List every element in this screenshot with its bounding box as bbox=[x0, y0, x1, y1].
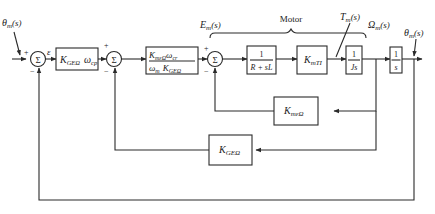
tm-label: Tm(s) bbox=[340, 11, 360, 24]
block-electrical: 1 R + sL bbox=[247, 46, 276, 74]
em-label: Em(s) bbox=[199, 19, 221, 32]
error-label: ε bbox=[47, 47, 51, 57]
block-back-emf: KmεΩ bbox=[274, 97, 318, 125]
summing-junction-2: Σ + − bbox=[104, 41, 122, 76]
summing-junction-3: Σ + − bbox=[204, 44, 223, 76]
svg-text:1: 1 bbox=[352, 50, 356, 59]
svg-text:−: − bbox=[104, 67, 109, 76]
svg-text:1: 1 bbox=[260, 50, 264, 59]
svg-text:1: 1 bbox=[394, 50, 398, 59]
omega-label: Ωm(s) bbox=[368, 19, 390, 32]
output-label: θm(s) bbox=[404, 27, 423, 40]
svg-text:Js: Js bbox=[351, 63, 358, 72]
block-diagram: θm(s) Σ + − ε KGEΩωcp Σ + − KmεΩωcr ωmKG… bbox=[0, 0, 435, 214]
block-integrator: 1 s bbox=[390, 47, 402, 73]
input-signal-label: θm(s) bbox=[2, 17, 21, 30]
svg-text:+: + bbox=[24, 48, 29, 57]
svg-text:s: s bbox=[394, 63, 397, 72]
block-inertia: 1 Js bbox=[346, 46, 362, 74]
summing-junction-1: Σ + − bbox=[24, 48, 46, 76]
svg-text:Σ: Σ bbox=[35, 55, 40, 65]
block-kge-omega-cp: KGEΩωcp bbox=[56, 48, 98, 70]
input-pointer-line bbox=[14, 32, 20, 55]
position-feedback-line bbox=[39, 59, 414, 200]
svg-text:θm(s): θm(s) bbox=[2, 17, 21, 30]
svg-text:Σ: Σ bbox=[212, 55, 217, 65]
tach-feedback-line-out bbox=[115, 68, 209, 150]
svg-text:+: + bbox=[104, 41, 109, 50]
svg-text:R + sL: R + sL bbox=[250, 63, 273, 72]
svg-text:Σ: Σ bbox=[111, 55, 116, 65]
block-tach-feedback: KGEΩ bbox=[209, 135, 252, 165]
block-scaling: KmεΩωcr ωmKGEΩ bbox=[146, 47, 198, 74]
svg-text:Motor: Motor bbox=[280, 14, 303, 24]
block-torque-constant: KmTI bbox=[297, 46, 327, 74]
output-pointer-line bbox=[414, 39, 416, 56]
svg-text:−: − bbox=[30, 67, 35, 76]
svg-text:+: + bbox=[204, 44, 209, 53]
svg-text:−: − bbox=[204, 67, 209, 76]
